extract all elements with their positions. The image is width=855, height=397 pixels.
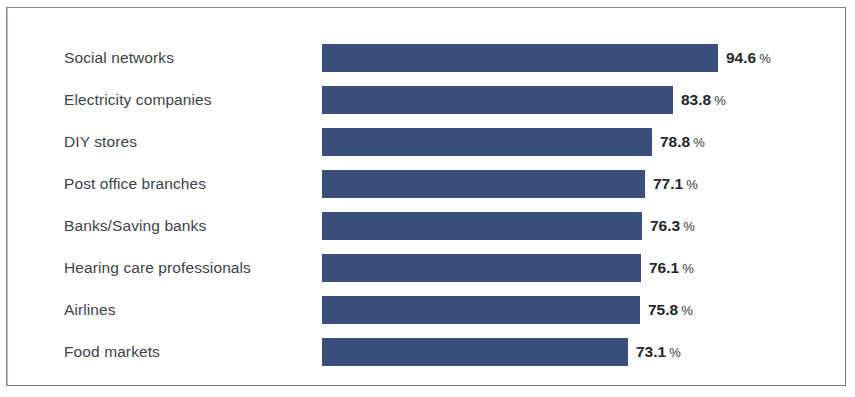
bar-value-number: 75.8 bbox=[648, 301, 678, 318]
bar-category-label: Airlines bbox=[64, 296, 116, 324]
bar-value-number: 77.1 bbox=[653, 175, 683, 192]
bar-category-label: Food markets bbox=[64, 338, 160, 366]
percent-sign: % bbox=[682, 261, 694, 276]
chart-page: Social networks94.6%Electricity companie… bbox=[0, 0, 855, 397]
bar-category-label: Hearing care professionals bbox=[64, 254, 251, 282]
percent-sign: % bbox=[693, 135, 705, 150]
bar-value-number: 76.1 bbox=[649, 259, 679, 276]
bar bbox=[322, 170, 645, 198]
bar-value-label: 76.1% bbox=[649, 254, 694, 282]
bar-value-number: 78.8 bbox=[660, 133, 690, 150]
bar-row: Airlines75.8% bbox=[0, 296, 855, 338]
bar-value-number: 73.1 bbox=[636, 343, 666, 360]
bar-value-label: 78.8% bbox=[660, 128, 705, 156]
bar-value-number: 94.6 bbox=[726, 49, 756, 66]
bar-value-number: 76.3 bbox=[650, 217, 680, 234]
bar-row: Banks/Saving banks76.3% bbox=[0, 212, 855, 254]
percent-sign: % bbox=[683, 219, 695, 234]
bar-row: Hearing care professionals76.1% bbox=[0, 254, 855, 296]
horizontal-bar-chart: Social networks94.6%Electricity companie… bbox=[0, 0, 855, 397]
bar-category-label: Electricity companies bbox=[64, 86, 212, 114]
bar bbox=[322, 296, 640, 324]
percent-sign: % bbox=[714, 93, 726, 108]
bar-value-label: 77.1% bbox=[653, 170, 698, 198]
bar-category-label: Social networks bbox=[64, 44, 174, 72]
bar-row: Electricity companies83.8% bbox=[0, 86, 855, 128]
bar bbox=[322, 212, 642, 240]
bar bbox=[322, 338, 628, 366]
bar-row: Food markets73.1% bbox=[0, 338, 855, 380]
bar-row: Post office branches77.1% bbox=[0, 170, 855, 212]
percent-sign: % bbox=[759, 51, 771, 66]
bar bbox=[322, 254, 641, 282]
bar-value-label: 94.6% bbox=[726, 44, 771, 72]
bar bbox=[322, 86, 673, 114]
bar-value-label: 73.1% bbox=[636, 338, 681, 366]
bar-value-label: 76.3% bbox=[650, 212, 695, 240]
bar bbox=[322, 44, 718, 72]
percent-sign: % bbox=[686, 177, 698, 192]
bar-row: DIY stores78.8% bbox=[0, 128, 855, 170]
bar-category-label: DIY stores bbox=[64, 128, 137, 156]
bar-value-label: 75.8% bbox=[648, 296, 693, 324]
bar-category-label: Banks/Saving banks bbox=[64, 212, 206, 240]
bar-row: Social networks94.6% bbox=[0, 44, 855, 86]
percent-sign: % bbox=[669, 345, 681, 360]
bar-value-number: 83.8 bbox=[681, 91, 711, 108]
bar bbox=[322, 128, 652, 156]
percent-sign: % bbox=[681, 303, 693, 318]
bar-value-label: 83.8% bbox=[681, 86, 726, 114]
bar-category-label: Post office branches bbox=[64, 170, 206, 198]
